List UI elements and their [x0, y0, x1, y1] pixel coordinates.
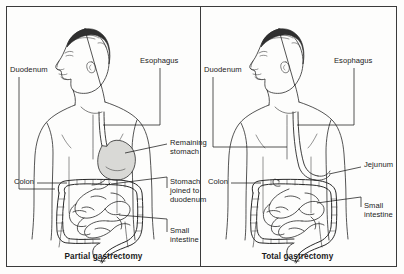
- label-small-intestine: Small intestine: [364, 201, 393, 219]
- panel-total-gastrectomy: Duodenum Esophagus Colon Jejunum Small i…: [201, 7, 394, 266]
- leader-stomach-joined: [111, 177, 167, 188]
- leader-small-intestine: [317, 197, 361, 207]
- label-esophagus: Esophagus: [334, 56, 372, 65]
- leader-remaining-stomach: [125, 144, 167, 153]
- label-duodenum: Duodenum: [204, 65, 242, 74]
- leader-duodenum: [19, 77, 55, 189]
- leader-small-intestine: [119, 215, 167, 232]
- label-colon: Colon: [208, 177, 228, 186]
- panel-partial-gastrectomy: Duodenum Esophagus Colon Remaining stoma…: [7, 7, 200, 266]
- leader-lines-total: [201, 7, 394, 266]
- leader-esophagus: [297, 68, 354, 125]
- leader-jejunum: [329, 167, 361, 174]
- leader-duodenum: [213, 77, 287, 147]
- label-small-intestine: Small intestine: [170, 226, 199, 244]
- gastrectomy-figure: Duodenum Esophagus Colon Remaining stoma…: [0, 0, 404, 274]
- leader-esophagus: [103, 68, 160, 125]
- label-esophagus: Esophagus: [140, 56, 178, 65]
- label-jejunum: Jejunum: [364, 160, 393, 169]
- caption-partial-gastrectomy: Partial gastrectomy: [7, 252, 200, 261]
- caption-total-gastrectomy: Total gastrectomy: [201, 252, 394, 261]
- label-colon: Colon: [14, 177, 34, 186]
- label-duodenum: Duodenum: [10, 65, 48, 74]
